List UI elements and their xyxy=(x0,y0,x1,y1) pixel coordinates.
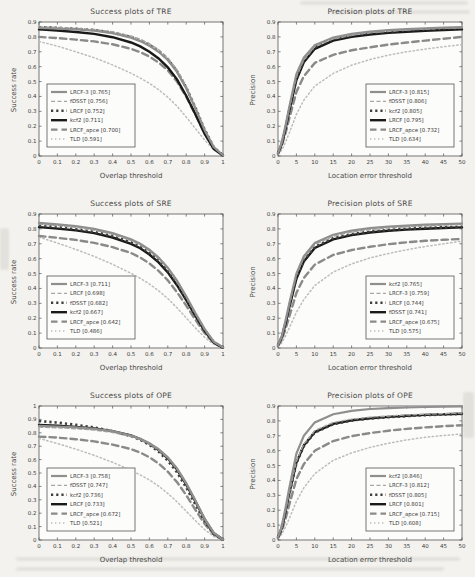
legend-entry-fDSST: fDSST [0.756] xyxy=(70,98,108,104)
x-tick-label: 0.5 xyxy=(127,543,136,549)
x-tick-label: 0.2 xyxy=(71,543,80,549)
x-axis-label: Location error threshold xyxy=(278,556,462,564)
legend-entry-fDSST: fDSST [0.747] xyxy=(70,482,108,488)
legend-entry-LRCF: LRCF [0.744] xyxy=(389,300,424,306)
chart-canvas: 0510152025303540455000.10.20.30.40.50.60… xyxy=(244,6,470,194)
chart-canvas: 0510152025303540455000.10.20.30.40.50.60… xyxy=(244,390,470,577)
chart-canvas: 00.10.20.30.40.50.60.70.80.9100.10.20.30… xyxy=(5,6,231,194)
x-tick-label: 0.7 xyxy=(163,159,172,165)
x-tick-label: 50 xyxy=(459,543,466,549)
y-tick-label: 0.2 xyxy=(28,123,37,129)
benchmark-figure: Success plots of TRE Success rate 00.10.… xyxy=(0,0,475,577)
x-axis-label: Location error threshold xyxy=(278,172,462,180)
y-tick-label: 0.4 xyxy=(267,285,276,291)
y-tick-label: 0.8 xyxy=(28,226,37,232)
y-tick-label: 0.4 xyxy=(28,285,37,291)
y-tick-label: 0.2 xyxy=(28,510,37,516)
x-tick-label: 40 xyxy=(422,543,429,549)
legend-entry-fDSST: fDSST [0.806] xyxy=(389,98,427,104)
y-tick-label: 0.2 xyxy=(28,315,37,321)
y-tick-label: 0.3 xyxy=(28,300,37,306)
x-tick-label: 45 xyxy=(440,159,447,165)
y-tick-label: 0.8 xyxy=(267,226,276,232)
x-tick-label: 20 xyxy=(348,351,355,357)
y-tick-label: 0.3 xyxy=(267,108,276,114)
y-tick-label: 0.1 xyxy=(28,138,37,144)
y-tick-label: 0.7 xyxy=(28,443,37,449)
chart-precision-tre: Precision plots of TRE Precision 0510152… xyxy=(244,6,470,194)
y-tick-label: 0.8 xyxy=(267,34,276,40)
y-tick-label: 1 xyxy=(33,403,37,409)
x-tick-label: 50 xyxy=(459,159,466,165)
y-tick-label: 0.5 xyxy=(28,470,37,476)
legend-entry-LRCF: LRCF [0.801] xyxy=(389,501,424,507)
legend-entry-LRCF: LRCF [0.698] xyxy=(70,290,105,296)
y-tick-label: 0.1 xyxy=(267,138,276,144)
legend-entry-kcf2: kcf2 [0.765] xyxy=(389,281,422,287)
x-tick-label: 0.6 xyxy=(145,351,154,357)
chart-success-sre: Success plots of SRE Success rate 00.10.… xyxy=(5,198,231,386)
y-tick-label: 0.5 xyxy=(267,271,276,277)
legend: LRCF-3 [0.758]fDSST [0.747]kcf2 [0.736]L… xyxy=(47,468,135,531)
y-tick-label: 0.8 xyxy=(28,430,37,436)
x-tick-label: 35 xyxy=(403,351,410,357)
x-tick-label: 15 xyxy=(330,543,337,549)
legend-entry-LRCF_apce: LRCF_apce [0.715] xyxy=(389,511,439,518)
legend-entry-LRCF: LRCF [0.733] xyxy=(70,501,105,507)
x-tick-label: 0 xyxy=(276,543,280,549)
legend-entry-LRCF-3: LRCF-3 [0.759] xyxy=(389,290,429,296)
x-tick-label: 0.1 xyxy=(53,159,62,165)
x-tick-label: 0 xyxy=(276,159,280,165)
x-tick-label: 30 xyxy=(385,543,392,549)
chart-canvas: 00.10.20.30.40.50.60.70.80.9100.10.20.30… xyxy=(5,390,231,577)
x-tick-label: 25 xyxy=(367,543,374,549)
y-tick-label: 0.6 xyxy=(28,64,37,70)
y-tick-label: 0.3 xyxy=(28,108,37,114)
y-tick-label: 0.9 xyxy=(267,211,276,217)
x-tick-label: 20 xyxy=(348,159,355,165)
legend-entry-LRCF_apce: LRCF_apce [0.700] xyxy=(70,127,120,134)
y-tick-label: 0.2 xyxy=(267,123,276,129)
x-tick-label: 45 xyxy=(440,543,447,549)
legend-entry-LRCF-3: LRCF-3 [0.812] xyxy=(389,482,429,488)
x-axis-label: Location error threshold xyxy=(278,364,462,372)
legend-entry-TLD: TLD [0.486] xyxy=(69,328,102,334)
legend-entry-TLD: TLD [0.591] xyxy=(69,136,102,142)
y-tick-label: 0.9 xyxy=(267,19,276,25)
x-tick-label: 1 xyxy=(221,351,225,357)
y-tick-label: 0.7 xyxy=(267,49,276,55)
legend-entry-kcf2: kcf2 [0.736] xyxy=(70,492,103,498)
x-tick-label: 1 xyxy=(221,159,225,165)
y-tick-label: 0.3 xyxy=(267,300,276,306)
x-tick-label: 0.3 xyxy=(90,543,99,549)
legend: kcf2 [0.846]LRCF-3 [0.812]fDSST [0.805]L… xyxy=(366,468,454,531)
x-tick-label: 0.6 xyxy=(145,159,154,165)
y-tick-label: 0.9 xyxy=(267,403,276,409)
x-tick-label: 0.2 xyxy=(71,159,80,165)
legend-entry-kcf2: kcf2 [0.667] xyxy=(70,309,103,315)
y-tick-label: 0.1 xyxy=(267,330,276,336)
y-tick-label: 0.7 xyxy=(28,241,37,247)
x-tick-label: 10 xyxy=(311,543,318,549)
x-tick-label: 0.4 xyxy=(108,351,117,357)
legend-entry-kcf2: kcf2 [0.846] xyxy=(389,473,422,479)
y-tick-label: 0.1 xyxy=(28,330,37,336)
x-tick-label: 15 xyxy=(330,351,337,357)
chart-success-tre: Success plots of TRE Success rate 00.10.… xyxy=(5,6,231,194)
y-tick-label: 0.9 xyxy=(28,416,37,422)
x-tick-label: 0.6 xyxy=(145,543,154,549)
x-tick-label: 40 xyxy=(422,351,429,357)
y-tick-label: 0 xyxy=(272,153,276,159)
y-tick-label: 0.1 xyxy=(28,524,37,530)
x-tick-label: 0.7 xyxy=(163,543,172,549)
legend-entry-LRCF: LRCF [0.752] xyxy=(70,108,105,114)
x-tick-label: 0 xyxy=(37,543,41,549)
x-tick-label: 25 xyxy=(367,159,374,165)
y-tick-label: 0.1 xyxy=(267,522,276,528)
x-tick-label: 0.2 xyxy=(71,351,80,357)
x-tick-label: 20 xyxy=(348,543,355,549)
y-tick-label: 0.6 xyxy=(267,448,276,454)
y-tick-label: 0.4 xyxy=(28,483,37,489)
x-tick-label: 0 xyxy=(37,159,41,165)
y-tick-label: 0.7 xyxy=(28,49,37,55)
